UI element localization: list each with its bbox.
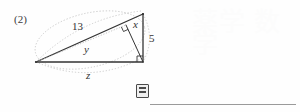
answer-box-icon[interactable] <box>136 84 149 98</box>
vertex-top-dot <box>142 13 144 15</box>
label-segment-y: y <box>84 43 89 55</box>
label-altitude-x: x <box>133 18 138 30</box>
label-base-z: z <box>86 69 90 81</box>
label-leg-5: 5 <box>149 32 155 44</box>
dotted-arc-base <box>36 56 146 73</box>
answer-entry-row[interactable] <box>136 84 296 108</box>
side-hypotenuse-13 <box>36 14 143 62</box>
label-hypotenuse-13: 13 <box>72 20 83 32</box>
vertex-left-dot <box>35 61 37 63</box>
worksheet-page: 薬学 数学 (2) 13 x 5 y z <box>0 0 300 112</box>
answer-write-line[interactable] <box>150 104 296 105</box>
